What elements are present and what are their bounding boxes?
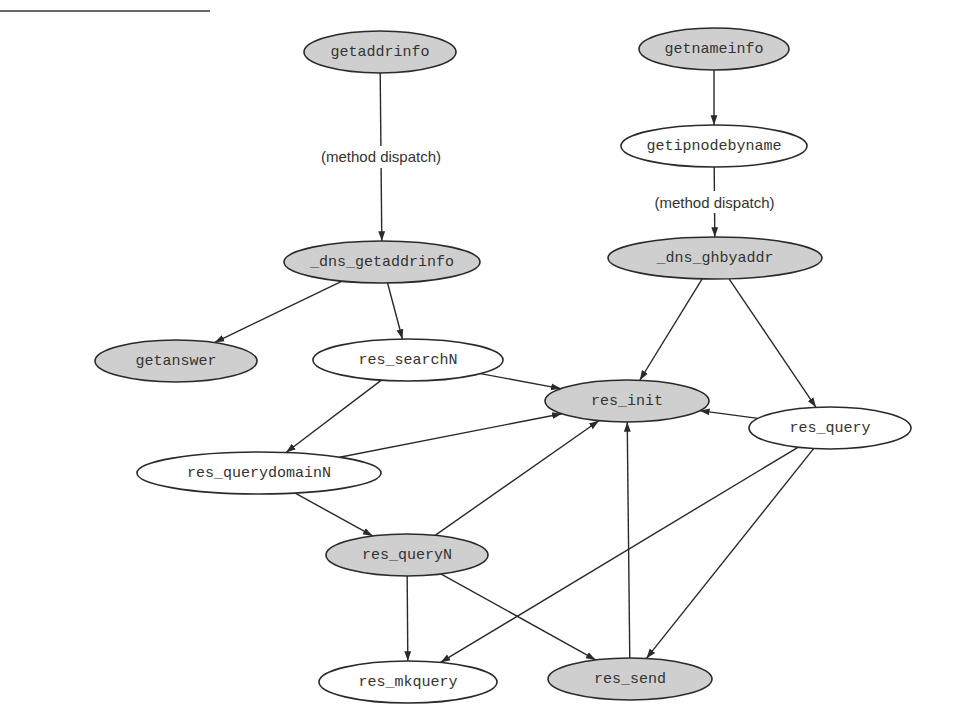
node-label: res_mkquery	[358, 674, 457, 691]
node-label: getnameinfo	[664, 41, 763, 58]
node-res_queryN: res_queryN	[326, 534, 488, 576]
node-label: getaddrinfo	[330, 44, 429, 61]
call-graph-diagram: (method dispatch)(method dispatch) getad…	[0, 0, 966, 722]
node-res_searchN: res_searchN	[313, 339, 503, 381]
node-res_init: res_init	[545, 380, 709, 422]
edge-res_query-to-res_send	[646, 449, 813, 659]
node-label: res_queryN	[362, 547, 452, 564]
edge-_dns_getaddrinfo-to-res_searchN	[388, 283, 403, 339]
edge-res_queryN-to-res_init	[435, 421, 599, 536]
node-label: _dns_ghbyaddr	[655, 250, 773, 267]
edge-res_searchN-to-res_querydomainN	[286, 380, 381, 452]
node-label: res_querydomainN	[187, 465, 331, 482]
node-label: res_send	[594, 671, 666, 688]
edge-label: (method dispatch)	[321, 148, 441, 165]
node-label: getanswer	[135, 353, 216, 370]
node-res_mkquery: res_mkquery	[319, 661, 497, 703]
edge-_dns_ghbyaddr-to-res_init	[640, 279, 702, 380]
edge-label: (method dispatch)	[654, 194, 774, 211]
node-label: res_searchN	[358, 352, 457, 369]
node-res_query: res_query	[749, 407, 911, 449]
node-label: getipnodebyname	[646, 138, 781, 155]
node-label: _dns_getaddrinfo	[309, 254, 454, 271]
edge-_dns_getaddrinfo-to-getanswer	[214, 281, 342, 342]
node-getanswer: getanswer	[95, 340, 257, 382]
nodes-layer: getaddrinfogetnameinfogetipnodebyname_dn…	[95, 28, 911, 703]
edge-res_queryN-to-res_send	[441, 574, 595, 660]
node-res_send: res_send	[548, 658, 712, 700]
edge-res_send-to-res_init	[627, 422, 630, 658]
edge-res_querydomainN-to-res_queryN	[295, 493, 372, 536]
edge-res_queryN-to-res_mkquery	[407, 576, 408, 661]
edge-_dns_ghbyaddr-to-res_query	[729, 279, 816, 407]
node-getaddrinfo: getaddrinfo	[304, 31, 456, 73]
node-getipnodebyname: getipnodebyname	[621, 125, 807, 167]
edge-res_query-to-res_init	[700, 411, 758, 419]
edge-res_searchN-to-res_init	[480, 374, 560, 389]
node-_dns_ghbyaddr: _dns_ghbyaddr	[608, 237, 822, 279]
edge-res_querydomainN-to-res_init	[340, 414, 562, 457]
node-_dns_getaddrinfo: _dns_getaddrinfo	[284, 241, 480, 283]
node-res_querydomainN: res_querydomainN	[137, 452, 381, 494]
node-label: res_query	[789, 420, 870, 437]
node-label: res_init	[591, 393, 663, 410]
edge-res_query-to-res_mkquery	[440, 447, 797, 662]
node-getnameinfo: getnameinfo	[639, 28, 789, 70]
